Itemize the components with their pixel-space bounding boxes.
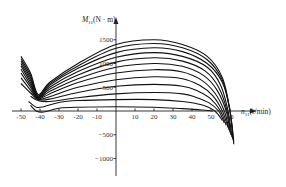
y-tick-label: 1500 [99, 36, 114, 44]
y-tick-label: 1000 [99, 60, 114, 68]
x-tick-label: -30 [54, 113, 64, 121]
y-tick-label: 500 [103, 84, 114, 92]
x-tick-label: 60 [227, 113, 235, 121]
x-tick-label: -10 [92, 113, 102, 121]
curve-family [21, 40, 234, 145]
torque-characteristic-chart: -50-40-30-20-10102030405060 15001000500−… [0, 0, 286, 187]
x-tick-label: -20 [73, 113, 83, 121]
x-tick-label: 50 [208, 113, 216, 121]
x-tick-label: 10 [132, 113, 140, 121]
x-tick-label: 30 [170, 113, 178, 121]
y-tick-label: −1000 [95, 155, 113, 163]
y-tick-label: −500 [99, 131, 114, 139]
x-tick-label: -40 [35, 113, 45, 121]
x-tick-label: 20 [151, 113, 159, 121]
x-axis-title: n11(r/min) [241, 107, 271, 117]
x-tick-label: 40 [189, 113, 197, 121]
x-tick-label: -50 [16, 113, 26, 121]
torque-curve [21, 77, 228, 128]
y-axis-title: M11(N · m) [81, 15, 116, 25]
